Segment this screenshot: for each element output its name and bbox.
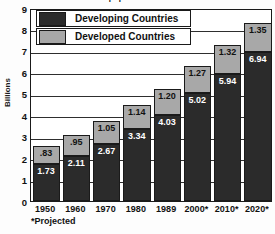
bar-value-label-developing: 5.94: [216, 76, 239, 86]
x-axis-tick-1950: 1950: [28, 204, 62, 214]
y-axis-tick-8: 8: [12, 26, 27, 35]
bar-segment-developed: 1.20: [154, 89, 181, 115]
bar-value-label-developed: 1.05: [95, 123, 118, 133]
y-axis-tick-6: 6: [12, 69, 27, 78]
bar-segment-developed: .83: [33, 146, 60, 164]
y-axis-tick-3: 3: [12, 133, 27, 142]
legend-item-developed: Developed Countries: [36, 28, 191, 45]
bar-value-label-developing: 5.02: [186, 95, 209, 105]
x-axis-ticks: 195019601970198019892000*2010*2020*: [30, 204, 272, 216]
bar-value-label-developing: 2.11: [65, 158, 88, 168]
legend-label-developed: Developed Countries: [75, 31, 175, 42]
y-axis-tick-4: 4: [12, 112, 27, 121]
y-axis-ticks: 9876543210: [12, 0, 27, 234]
x-axis-tick-1980: 1980: [119, 204, 153, 214]
bar-segment-developing: 1.73: [33, 164, 60, 201]
bar-segment-developing: 6.94: [244, 52, 271, 201]
bar-segment-developing: 5.94: [214, 74, 241, 201]
bar-value-label-developed: 1.14: [125, 107, 148, 117]
y-axis-tick-7: 7: [12, 47, 27, 56]
x-axis-tick-2000-projected: 2000*: [179, 204, 213, 214]
bar-segment-developed: 1.14: [123, 105, 150, 129]
bar-value-label-developed: 1.27: [186, 68, 209, 78]
legend-label-developing: Developing Countries: [75, 13, 178, 24]
bar-segment-developing: 3.34: [123, 129, 150, 201]
x-axis-tick-1989: 1989: [149, 204, 183, 214]
bar-value-label-developing: 3.34: [125, 131, 148, 141]
legend-swatch-developed-icon: [39, 30, 66, 44]
bar-segment-developing: 2.67: [93, 144, 120, 201]
y-axis-title: Billions: [3, 67, 12, 119]
bar-group: 5.941.32: [214, 9, 241, 201]
bar-value-label-developing: 2.67: [95, 146, 118, 156]
y-axis-tick-9: 9: [12, 5, 27, 14]
chart-title: World population in billions: [0, 0, 275, 2]
legend-swatch-developing-icon: [39, 12, 66, 26]
bar-value-label-developing: 6.94: [246, 54, 269, 64]
bar-segment-developed: 1.05: [93, 121, 120, 144]
legend-item-developing: Developing Countries: [36, 10, 191, 27]
bar-segment-developing: 5.02: [184, 93, 211, 201]
bar-value-label-developed: .95: [65, 137, 88, 147]
bar-segment-developed: .95: [63, 135, 90, 155]
bar-value-label-developed: 1.32: [216, 47, 239, 57]
bar-segment-developing: 4.03: [154, 115, 181, 201]
x-axis-tick-1970: 1970: [89, 204, 123, 214]
bar-segment-developing: 2.11: [63, 156, 90, 201]
bar-value-label-developing: 1.73: [35, 166, 58, 176]
bar-segment-developed: 1.27: [184, 66, 211, 93]
bar-group: 6.941.35: [244, 9, 271, 201]
y-axis-tick-0: 0: [12, 198, 27, 207]
bar-value-label-developed: 1.35: [246, 25, 269, 35]
x-axis-tick-2020-projected: 2020*: [240, 204, 274, 214]
bar-segment-developed: 1.35: [244, 23, 271, 52]
chart-legend: Developing Countries Developed Countries: [36, 10, 191, 46]
x-axis-tick-1960: 1960: [58, 204, 92, 214]
bar-value-label-developed: 1.20: [156, 91, 179, 101]
y-axis-tick-5: 5: [12, 90, 27, 99]
population-bar-chart: World population in billions Billions 98…: [0, 0, 275, 234]
y-axis-tick-1: 1: [12, 176, 27, 185]
bar-value-label-developing: 4.03: [156, 117, 179, 127]
x-axis-tick-2010-projected: 2010*: [210, 204, 244, 214]
projected-footnote: *Projected: [31, 216, 76, 226]
bar-value-label-developed: .83: [35, 148, 58, 158]
bar-segment-developed: 1.32: [214, 45, 241, 73]
y-axis-tick-2: 2: [12, 155, 27, 164]
